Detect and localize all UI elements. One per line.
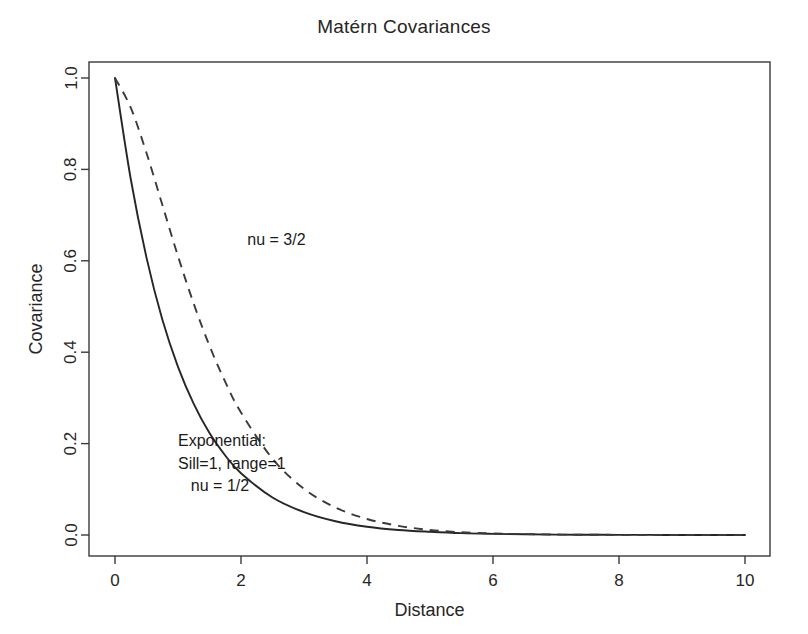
- x-tick-label: 2: [236, 571, 245, 590]
- y-tick-label: 0.8: [62, 158, 81, 182]
- x-tick-label: 6: [488, 571, 497, 590]
- axes-group: [81, 62, 770, 564]
- y-tick-label: 0.2: [62, 432, 81, 456]
- y-tick-label: 0.0: [62, 523, 81, 547]
- y-tick-label: 1.0: [62, 66, 81, 90]
- plot-canvas: 02468100.00.20.40.60.81.0 nu = 3/2Expone…: [0, 0, 808, 634]
- x-tick-label: 4: [362, 571, 371, 590]
- y-tick-label: 0.4: [62, 340, 81, 364]
- annotation-exp2: Sill=1, range=1: [178, 455, 286, 472]
- annotations-group: nu = 3/2Exponential:Sill=1, range=1nu = …: [178, 231, 306, 494]
- annotation-exp1: Exponential:: [178, 432, 266, 449]
- x-axis-title: Distance: [394, 600, 464, 620]
- y-tick-label: 0.6: [62, 249, 81, 273]
- x-tick-label: 8: [614, 571, 623, 590]
- y-axis-title: Covariance: [26, 263, 46, 354]
- matern-covariance-figure: Matérn Covariances 02468100.00.20.40.60.…: [0, 0, 808, 634]
- x-tick-label: 10: [736, 571, 755, 590]
- x-tick-label: 0: [110, 571, 119, 590]
- annotation-exp3: nu = 1/2: [191, 477, 249, 494]
- annotation-nu32: nu = 3/2: [247, 231, 305, 248]
